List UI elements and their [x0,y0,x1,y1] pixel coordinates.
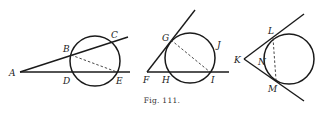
label-h: H [161,75,170,85]
label-g: G [162,33,169,43]
circle-1 [70,36,120,86]
label-k: K [233,55,242,65]
label-i: I [210,75,215,85]
figure-tangent-tangent: K L N M [233,14,314,101]
chord-be-dashed [71,55,117,72]
figure-tangent-secant: F G H I J [142,10,229,85]
chord-gi-dashed [171,40,210,72]
label-a: A [8,68,16,78]
figure-secant-secant: A B C D E [8,30,130,86]
label-c: C [111,30,118,40]
geometry-figure: A B C D E F G H I J K L N M Fig. 111. [0,0,325,113]
label-l: L [267,26,274,36]
label-m: M [267,84,278,94]
label-e: E [115,76,123,86]
figure-caption: Fig. 111. [144,96,181,105]
label-b: B [62,44,70,54]
tangent-line-km [244,59,304,101]
circle-3 [264,34,314,84]
circle-2 [165,33,215,83]
label-n: N [257,57,267,67]
label-d: D [62,76,70,86]
label-f: F [142,75,150,85]
chord-lm-dashed [273,38,276,80]
label-j: J [215,40,222,50]
